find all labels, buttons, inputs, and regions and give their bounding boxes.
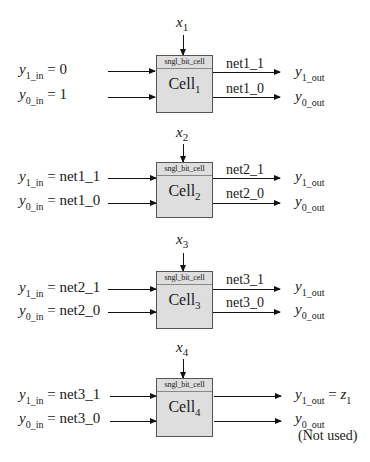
y0-out-arrow [213,97,280,98]
x-input-label: x2 [176,124,188,143]
net-label-0: net3_0 [226,295,264,311]
y1-out-label: y1_out [295,168,324,188]
net-label-1: net3_1 [226,272,264,288]
net-label-0: net1_0 [226,81,264,97]
y1-in-label: y1_in = 0 [19,61,67,81]
x-input-arrow [183,144,184,162]
cell-group-1: x1 sngl_bit_cell Cell1 y1_in = 0 y0_in =… [0,0,370,115]
y1-in-label: y1_in = net2_1 [19,279,100,299]
cascaded-cell-diagram: x1 sngl_bit_cell Cell1 y1_in = 0 y0_in =… [0,0,370,462]
y0-in-arrow [108,203,156,204]
y1-out-label: y1_out = z1 [295,386,351,406]
y0-in-arrow [110,421,156,422]
y1-in-arrow [108,289,156,290]
y1-out-arrow [214,396,281,397]
y0-out-label: y0_out [295,193,324,213]
y0-in-arrow [108,97,155,98]
y0-in-label: y0_in = 1 [19,86,67,106]
cell-group-2: x2 sngl_bit_cell Cell2 y1_in = net1_1 y0… [0,107,370,222]
cell-box: sngl_bit_cell Cell4 [156,378,213,437]
y0-out-arrow [214,421,281,422]
net-label-0: net2_0 [226,186,264,202]
y0-out-label: y0_out [295,301,324,321]
y1-in-arrow [108,71,155,72]
cell-type-label: sngl_bit_cell [157,57,212,66]
y1-out-arrow [213,72,280,73]
y0-out-arrow [213,312,280,313]
cell-name: Cell3 [157,291,212,311]
cell-type-label: sngl_bit_cell [157,380,212,389]
cell-box: sngl_bit_cell Cell3 [156,271,213,329]
y0-out-label: y0_out [295,410,324,430]
y1-in-label: y1_in = net3_1 [19,386,100,406]
y1-in-label: y1_in = net1_1 [19,168,100,188]
cell-box: sngl_bit_cell Cell2 [156,162,213,218]
cell-box: sngl_bit_cell Cell1 [156,55,213,113]
cell-name: Cell4 [157,398,212,418]
y0-in-arrow [108,312,156,313]
cell-name: Cell1 [157,75,212,95]
x-input-arrow [183,253,184,271]
y0-in-label: y0_in = net2_0 [19,302,100,322]
x-input-label: x1 [176,14,188,33]
y0-out-label: y0_out [295,88,324,108]
x-input-arrow [183,359,184,378]
not-used-note: (Not used) [298,428,358,444]
y1-out-label: y1_out [295,278,324,298]
y1-in-arrow [108,178,156,179]
x-input-label: x3 [176,231,188,250]
y1-out-arrow [213,289,280,290]
cell-type-label: sngl_bit_cell [157,273,212,282]
cell-type-label: sngl_bit_cell [157,164,212,173]
y0-in-label: y0_in = net3_0 [19,410,100,430]
y1-in-arrow [110,396,156,397]
y1-out-arrow [213,178,280,179]
x-input-label: x4 [176,339,188,358]
net-label-1: net2_1 [226,162,264,178]
cell-group-4: x4 sngl_bit_cell Cell4 y1_in = net3_1 y0… [0,323,370,462]
y0-out-arrow [213,203,280,204]
net-label-1: net1_1 [226,56,264,72]
x-input-arrow [183,35,184,55]
y1-out-label: y1_out [295,63,324,83]
cell-name: Cell2 [157,182,212,202]
y0-in-label: y0_in = net1_0 [19,192,100,212]
cell-group-3: x3 sngl_bit_cell Cell3 y1_in = net2_1 y0… [0,216,370,331]
